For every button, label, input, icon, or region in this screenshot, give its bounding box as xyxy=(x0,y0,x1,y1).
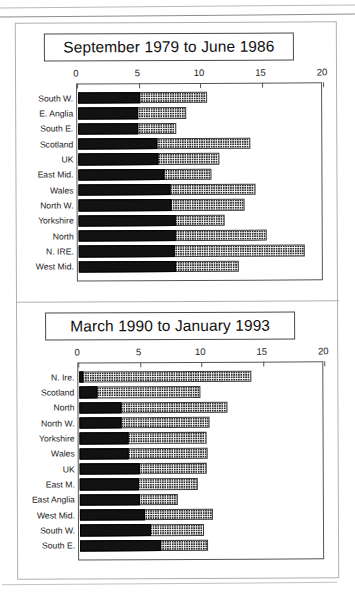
stacked-bar xyxy=(78,107,186,119)
bar-segment-dark xyxy=(80,463,140,474)
stacked-bar xyxy=(80,417,210,429)
bar-category-label: South E. xyxy=(42,541,75,551)
bar-category-label: Wales xyxy=(50,185,74,195)
scan-edge-line-upper xyxy=(0,4,355,8)
bar-segment-dark xyxy=(80,448,129,459)
stacked-bar xyxy=(78,138,250,150)
x-axis-tick-mark xyxy=(263,362,264,367)
bar-category-label: West Mid. xyxy=(36,262,74,272)
bar-row: South E. xyxy=(79,539,323,551)
x-axis-tick-mark xyxy=(262,83,263,88)
bar-row: East M. xyxy=(79,478,323,490)
bar-category-label: East M. xyxy=(46,479,75,489)
panel-1-plot-box: South W.E. AngliaSouth E.ScotlandUKEast … xyxy=(76,82,323,281)
x-axis-tick-label: 0 xyxy=(73,67,78,78)
chart-panel-1979-1986: September 1979 to June 1986 05101520 Sou… xyxy=(16,22,339,301)
bar-category-label: South W. xyxy=(38,93,73,103)
x-axis-tick-label: 15 xyxy=(256,346,267,357)
bar-row: N. Ire. xyxy=(78,371,322,383)
panel-1-title: September 1979 to June 1986 xyxy=(63,38,274,57)
bar-segment-dark xyxy=(80,479,139,490)
bar-row: East Mid. xyxy=(77,168,321,180)
x-axis-tick-label: 5 xyxy=(135,67,140,78)
bar-row: North xyxy=(78,401,322,413)
panel-2-title: March 1990 to January 1993 xyxy=(70,317,270,336)
panel-1-chart-area: 05101520 South W.E. AngliaSouth E.Scotla… xyxy=(16,66,339,289)
bar-segment-dark xyxy=(79,387,97,398)
x-axis-tick-label: 0 xyxy=(75,346,80,357)
stacked-bar xyxy=(80,540,208,552)
stacked-bar xyxy=(80,478,198,490)
bar-segment-dark xyxy=(79,245,175,256)
bar-segment-dark xyxy=(79,199,173,210)
stacked-bar xyxy=(79,215,225,227)
x-axis-tick-label: 5 xyxy=(136,346,141,357)
bar-segment-dark xyxy=(78,169,164,180)
bar-category-label: Yorkshire xyxy=(38,216,74,226)
x-axis-tick-label: 15 xyxy=(255,67,266,78)
bar-segment-dark xyxy=(80,433,129,444)
bar-category-label: Scotland xyxy=(40,139,73,149)
bar-segment-dark xyxy=(80,509,145,520)
panel-1-title-box: September 1979 to June 1986 xyxy=(44,32,294,61)
stacked-bar xyxy=(79,261,239,273)
bar-row: Wales xyxy=(79,447,323,459)
bar-row: West Mid. xyxy=(79,509,323,521)
panel-2-plot-box: N. Ire.ScotlandNorthNorth W.YorkshireWal… xyxy=(77,361,324,560)
bar-row: UK xyxy=(77,153,321,165)
bar-category-label: North xyxy=(53,403,74,413)
x-axis-tick-mark xyxy=(201,362,202,367)
stacked-bar xyxy=(79,371,251,383)
bar-row: South E. xyxy=(77,122,321,134)
bar-segment-dark xyxy=(78,184,170,195)
x-axis-tick-label: 20 xyxy=(317,66,328,77)
bar-row: Scotland xyxy=(77,138,321,150)
bar-segment-dotted xyxy=(79,371,251,383)
x-axis-tick-mark xyxy=(324,361,325,366)
bar-segment-dark xyxy=(79,402,121,413)
bar-row: North xyxy=(78,230,322,242)
bar-row: Yorkshire xyxy=(78,214,322,226)
x-axis-tick-mark xyxy=(200,83,201,88)
stacked-bar xyxy=(80,509,213,521)
bar-row: Scotland xyxy=(78,386,322,398)
bar-segment-dark xyxy=(78,138,157,149)
stacked-bar xyxy=(79,245,305,257)
bar-row: N. IRE. xyxy=(78,245,322,257)
bar-category-label: North W. xyxy=(40,200,73,210)
stacked-bar xyxy=(79,230,267,242)
bar-segment-dark xyxy=(80,540,161,551)
bar-row: South W. xyxy=(79,524,323,536)
stacked-bar xyxy=(80,494,178,505)
panel-2-bar-rows: N. Ire.ScotlandNorthNorth W.YorkshireWal… xyxy=(78,362,323,559)
bar-category-label: Scotland xyxy=(41,387,74,397)
bar-segment-dark xyxy=(80,525,151,536)
chart-panel-1990-1993: March 1990 to January 1993 05101520 N. I… xyxy=(17,300,340,580)
bar-segment-dark xyxy=(79,230,176,241)
stacked-bar xyxy=(78,153,219,165)
bar-segment-dark xyxy=(80,494,140,505)
scan-edge-line-lower xyxy=(0,14,355,18)
bar-segment-dark xyxy=(78,92,140,103)
bar-row: UK xyxy=(79,463,323,475)
bar-category-label: North W. xyxy=(41,418,74,428)
bar-category-label: N. IRE. xyxy=(46,246,74,256)
x-axis-tick-label: 10 xyxy=(195,346,206,357)
bar-category-label: E. Anglia xyxy=(39,108,73,118)
x-axis-tick-mark xyxy=(78,362,79,367)
bar-row: West Mid. xyxy=(78,260,322,272)
scan-edge-line-bottom xyxy=(2,582,337,585)
bar-row: Yorkshire xyxy=(79,432,323,444)
bar-category-label: East Mid. xyxy=(38,170,74,180)
bar-segment-dark xyxy=(79,261,176,272)
x-axis-tick-label: 20 xyxy=(318,345,329,356)
stacked-bar xyxy=(80,524,204,536)
panel-2-chart-area: 05101520 N. Ire.ScotlandNorthNorth W.Yor… xyxy=(17,345,340,568)
bar-category-label: North xyxy=(53,231,74,241)
stacked-bar xyxy=(80,463,207,475)
stacked-bar xyxy=(79,402,227,414)
bar-category-label: N. Ire. xyxy=(51,372,74,382)
bar-segment-dark xyxy=(79,372,83,383)
bar-category-label: UK xyxy=(61,154,73,164)
bar-row: Wales xyxy=(77,184,321,196)
